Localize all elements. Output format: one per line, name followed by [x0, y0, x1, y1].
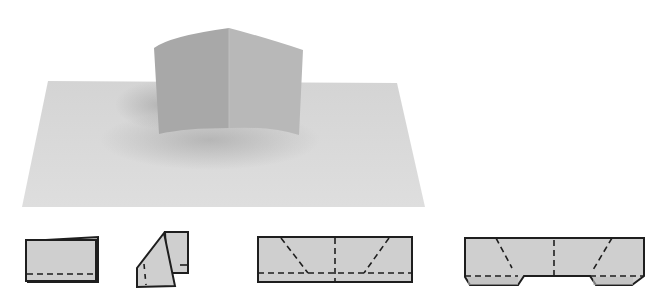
step-1-diagram [26, 237, 98, 282]
step-2-diagram [137, 232, 188, 287]
figure [0, 0, 665, 306]
step-3-diagram [258, 237, 412, 282]
popup-left-panel [154, 28, 229, 134]
step-4-diagram [465, 238, 644, 285]
popup-photo [0, 0, 665, 306]
popup-right-panel [229, 28, 303, 135]
